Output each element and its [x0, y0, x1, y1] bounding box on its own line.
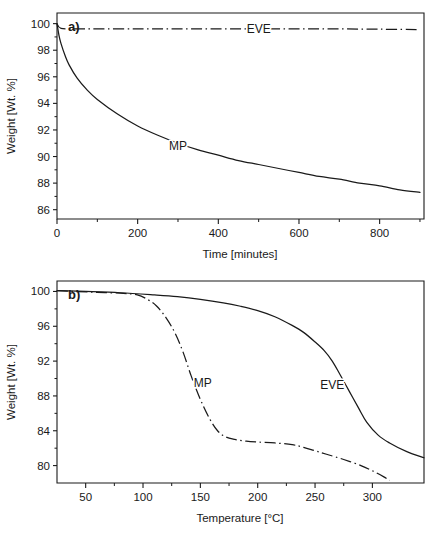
panel-b-frame: [57, 281, 424, 483]
y-tick-label: 92: [37, 355, 50, 367]
y-tick-label: 96: [37, 71, 50, 83]
x-tick-label: 250: [305, 491, 324, 503]
y-tick-label: 84: [37, 425, 50, 437]
panel-a-frame: [57, 13, 424, 219]
series-curve-eve: [57, 24, 420, 30]
panel-a-y-ticks: 86889092949698100: [31, 18, 57, 216]
series-label-mp: MP: [169, 139, 187, 153]
panel-b-x-axis-title: Temperature [°C]: [196, 512, 283, 524]
figure-container: 86889092949698100 0200400600800 MPEVE a)…: [0, 0, 436, 536]
y-tick-label: 96: [37, 320, 50, 332]
plot-frame: [57, 13, 424, 219]
panel-b: 8084889296100 50100150200250300 MPEVE b)…: [0, 268, 436, 536]
y-tick-label: 88: [37, 390, 50, 402]
panel-b-curves: MPEVE: [57, 291, 424, 481]
panel-b-y-ticks: 8084889296100: [31, 285, 57, 471]
panel-a-x-ticks: 0200400600800: [54, 219, 420, 239]
x-tick-label: 600: [289, 227, 308, 239]
x-tick-label: 200: [248, 491, 267, 503]
y-tick-label: 90: [37, 151, 50, 163]
panel-b-x-ticks: 50100150200250300: [79, 483, 382, 503]
panel-a-svg: 86889092949698100 0200400600800 MPEVE a)…: [0, 0, 436, 268]
x-tick-label: 0: [54, 227, 60, 239]
panel-b-label: b): [68, 287, 80, 302]
series-label-eve: EVE: [247, 22, 271, 36]
x-tick-label: 300: [363, 491, 382, 503]
y-tick-label: 80: [37, 460, 50, 472]
panel-a: 86889092949698100 0200400600800 MPEVE a)…: [0, 0, 436, 268]
series-label-mp: MP: [194, 376, 212, 390]
y-tick-label: 100: [31, 18, 50, 30]
x-tick-label: 800: [370, 227, 389, 239]
series-curve-eve: [57, 291, 424, 458]
x-tick-label: 400: [209, 227, 228, 239]
plot-frame: [57, 281, 424, 483]
panel-b-y-axis-title: Weight [Wt. %]: [5, 344, 17, 420]
y-tick-label: 94: [37, 97, 50, 109]
series-label-eve: EVE: [320, 378, 344, 392]
y-tick-label: 86: [37, 204, 50, 216]
y-tick-label: 100: [31, 285, 50, 297]
x-tick-label: 150: [191, 491, 210, 503]
y-tick-label: 88: [37, 177, 50, 189]
panel-a-label: a): [68, 19, 80, 34]
y-tick-label: 98: [37, 44, 50, 56]
panel-a-y-axis-title: Weight [Wt. %]: [5, 78, 17, 154]
panel-a-curves: MPEVE: [57, 22, 420, 192]
y-tick-label: 92: [37, 124, 50, 136]
panel-b-svg: 8084889296100 50100150200250300 MPEVE b)…: [0, 268, 436, 536]
x-tick-label: 200: [128, 227, 147, 239]
x-tick-label: 50: [79, 491, 92, 503]
panel-a-x-axis-title: Time [minutes]: [203, 248, 278, 260]
series-curve-mp: [57, 24, 420, 193]
x-tick-label: 100: [133, 491, 152, 503]
